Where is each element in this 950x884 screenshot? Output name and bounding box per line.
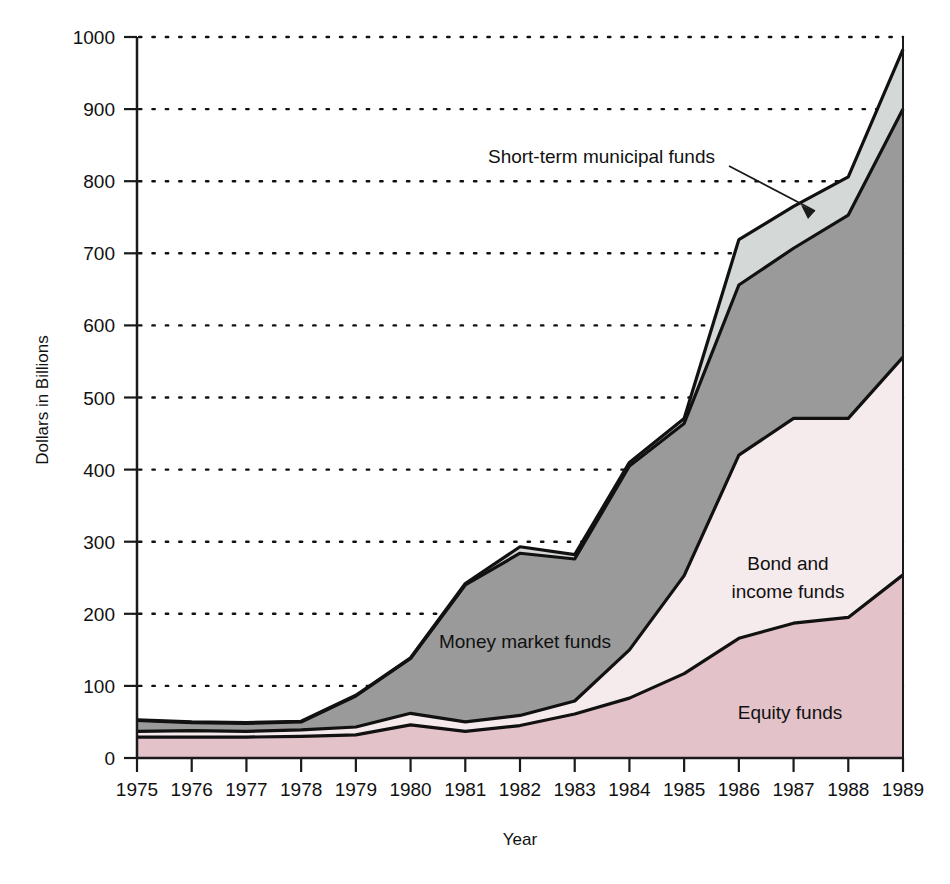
x-tick-label: 1984 (608, 779, 651, 800)
x-tick-label: 1980 (389, 779, 431, 800)
x-tick-label: 1988 (827, 779, 869, 800)
y-tick-label: 600 (83, 315, 115, 336)
series-label-equity: Equity funds (738, 702, 843, 723)
x-tick-label-group: 1975197619771978197919801981198219831984… (116, 779, 924, 800)
x-tick-label: 1977 (225, 779, 267, 800)
y-tick-label: 900 (83, 99, 115, 120)
x-tick-label: 1986 (718, 779, 760, 800)
x-tick-label: 1976 (171, 779, 213, 800)
x-axis-title: Year (503, 830, 538, 849)
y-tick-label: 700 (83, 243, 115, 264)
y-tick-label: 800 (83, 171, 115, 192)
series-label-bond-income-line1: Bond and (747, 553, 828, 574)
series-label-bond-income-line2: income funds (731, 581, 844, 602)
y-tick-label: 400 (83, 460, 115, 481)
chart-canvas: 01002003004005006007008009001000 1975197… (0, 0, 950, 884)
y-axis-title: Dollars in Billions (33, 335, 52, 464)
x-tick-label: 1979 (335, 779, 377, 800)
y-tick-label: 0 (104, 748, 115, 769)
y-tick-group (124, 37, 137, 758)
x-tick-label: 1983 (554, 779, 596, 800)
x-tick-label: 1981 (444, 779, 486, 800)
y-tick-label: 300 (83, 532, 115, 553)
x-tick-label: 1989 (882, 779, 924, 800)
y-tick-label: 100 (83, 676, 115, 697)
x-tick-label: 1987 (772, 779, 814, 800)
y-tick-label: 500 (83, 388, 115, 409)
series-label-short-term-municipal: Short-term municipal funds (488, 146, 715, 167)
y-tick-label: 200 (83, 604, 115, 625)
x-tick-label: 1975 (116, 779, 158, 800)
x-tick-label: 1985 (663, 779, 705, 800)
x-tick-label: 1978 (280, 779, 322, 800)
y-tick-label-group: 01002003004005006007008009001000 (73, 27, 115, 769)
x-tick-label: 1982 (499, 779, 541, 800)
stacked-area-chart: 01002003004005006007008009001000 1975197… (0, 0, 950, 884)
series-label-money-market: Money market funds (439, 631, 611, 652)
x-tick-group (137, 758, 903, 772)
y-tick-label: 1000 (73, 27, 115, 48)
